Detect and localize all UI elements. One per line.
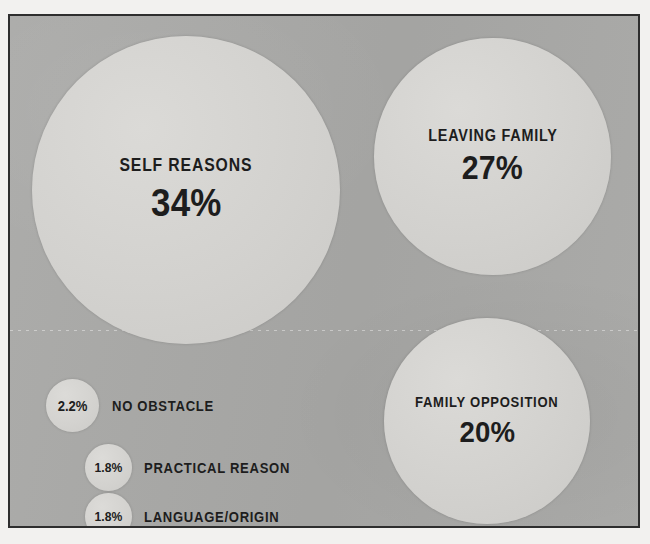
scan-line-artifact — [10, 330, 638, 331]
bubble-leaving-family-value: 27% — [462, 151, 523, 186]
legend-bubble-language-origin: 1.8% — [85, 493, 132, 528]
bubble-self-reasons[interactable]: SELF REASONS 34% — [32, 36, 340, 344]
bubble-self-reasons-label: SELF REASONS — [120, 156, 253, 175]
legend-value-language-origin: 1.8% — [95, 509, 123, 524]
legend-row-practical-reason[interactable]: 1.8% PRACTICAL REASON — [85, 444, 306, 491]
chart-stage: SELF REASONS 34% LEAVING FAMILY 27% FAMI… — [0, 0, 650, 544]
bubble-self-reasons-value: 34% — [151, 184, 222, 224]
bubble-family-opposition[interactable]: FAMILY OPPOSITION 20% — [384, 318, 590, 524]
bubble-leaving-family[interactable]: LEAVING FAMILY 27% — [374, 38, 611, 275]
legend-label-no-obstacle: NO OBSTACLE — [112, 398, 214, 414]
legend-bubble-no-obstacle: 2.2% — [46, 379, 99, 432]
bubble-leaving-family-label: LEAVING FAMILY — [428, 127, 558, 145]
legend-bubble-practical-reason: 1.8% — [85, 444, 132, 491]
legend-row-no-obstacle[interactable]: 2.2% NO OBSTACLE — [46, 379, 225, 432]
chart-panel: SELF REASONS 34% LEAVING FAMILY 27% FAMI… — [8, 14, 640, 528]
legend-label-practical-reason: PRACTICAL REASON — [144, 460, 290, 476]
bubble-family-opposition-label: FAMILY OPPOSITION — [415, 395, 558, 411]
bubble-family-opposition-value: 20% — [459, 416, 515, 448]
legend-value-no-obstacle: 2.2% — [58, 398, 88, 414]
legend-value-practical-reason: 1.8% — [95, 460, 123, 475]
legend-label-language-origin: LANGUAGE/ORIGIN — [144, 509, 279, 525]
legend-row-language-origin[interactable]: 1.8% LANGUAGE/ORIGIN — [85, 493, 295, 528]
